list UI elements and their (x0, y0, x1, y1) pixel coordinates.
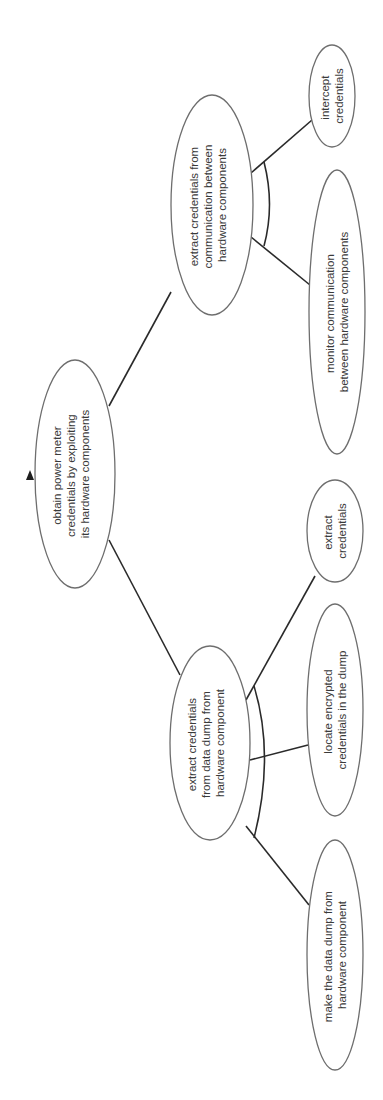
label-line: locate encrypted (322, 669, 334, 753)
node-monitor-ellipse (309, 170, 365, 454)
label-line: credentials (333, 68, 345, 124)
node-locate-encrypted-credentials: locate encrypted credentials in the dump (307, 604, 363, 816)
edge-root-comm (109, 292, 171, 406)
label-line: hardware components (216, 148, 228, 262)
node-dump-label: extract credentials from data dump from … (186, 688, 226, 798)
edge-comm-intercept (251, 120, 312, 173)
edge-dump-extract (246, 576, 315, 700)
label-line: hardware component (336, 900, 348, 1009)
label-line: monitor communication (324, 254, 336, 373)
node-make-ellipse (307, 840, 363, 1070)
label-line: obtain power meter (51, 426, 63, 525)
node-locate-ellipse (307, 604, 363, 816)
label-line: extract credentials (186, 698, 198, 792)
and-refinement-arc-comm (264, 162, 270, 246)
edge-root-dump (109, 540, 180, 675)
label-line: hardware component (214, 688, 226, 797)
label-line: between hardware components (338, 232, 350, 393)
attack-tree-diagram: obtain power meter credentials by exploi… (0, 0, 383, 1100)
root-goal-marker-icon (26, 470, 34, 480)
label-line: extract credentials from (188, 147, 200, 267)
label-line: from data dump from (200, 691, 212, 798)
node-comm-label: extract credentials from communication b… (188, 141, 228, 268)
and-refinement-arc-dump (254, 686, 265, 838)
node-intercept-credentials: intercept credentials (309, 45, 355, 147)
edge-dump-locate (250, 745, 308, 760)
node-extract-ellipse (307, 480, 363, 582)
node-root-label: obtain power meter credentials by exploi… (51, 410, 91, 539)
node-root: obtain power meter credentials by exploi… (35, 360, 115, 588)
label-line: its hardware components (79, 410, 91, 539)
label-line: make the data dump from (322, 891, 334, 1022)
label-line: credentials in the dump (336, 651, 348, 770)
label-line: extract (322, 515, 334, 550)
node-monitor-communication: monitor communication between hardware c… (309, 170, 365, 454)
node-extract-credentials: extract credentials (307, 480, 363, 582)
node-extract-from-data-dump: extract credentials from data dump from … (170, 646, 250, 840)
node-intercept-ellipse (309, 45, 355, 147)
node-extract-from-communication: extract credentials from communication b… (171, 95, 253, 315)
node-make-data-dump: make the data dump from hardware compone… (307, 840, 363, 1070)
label-line: credentials (336, 503, 348, 559)
label-line: communication between (202, 145, 214, 269)
edge-comm-monitor (251, 237, 310, 285)
label-line: intercept (319, 75, 331, 120)
edge-dump-make (246, 826, 309, 905)
label-line: credentials by exploiting (65, 414, 77, 537)
